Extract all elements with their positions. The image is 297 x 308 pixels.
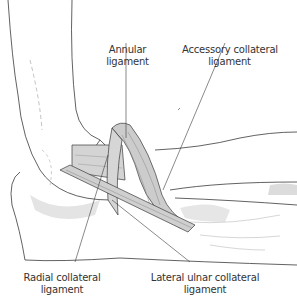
bone-contour <box>210 245 265 250</box>
label-line: Annular <box>105 44 150 56</box>
label-accessory-collateral-ligament: Accessory collateral ligament <box>182 44 277 68</box>
label-line: ligament <box>22 284 102 296</box>
label-radial-collateral-ligament: Radial collateral ligament <box>22 272 102 296</box>
bone-contour <box>200 235 280 238</box>
ulna-outline <box>175 198 297 205</box>
bone-shadow <box>268 184 297 196</box>
label-line: ligament <box>182 56 277 68</box>
ligament-fibers <box>66 170 192 228</box>
label-line: ligament <box>105 56 150 68</box>
label-lateral-ulnar-collateral-ligament: Lateral ulnar collateral ligament <box>150 272 260 296</box>
bone-contour <box>30 60 42 130</box>
bone-line <box>178 108 180 110</box>
label-line: Lateral ulnar collateral <box>150 272 260 284</box>
label-annular-ligament: Annular ligament <box>105 44 150 68</box>
label-line: ligament <box>150 284 260 296</box>
bone-contour <box>42 150 51 185</box>
humerus-outline <box>72 0 101 140</box>
bone-shadow <box>180 204 230 222</box>
radius-outline <box>155 132 297 150</box>
elbow-ligament-diagram: Annular ligament Accessory collateral li… <box>0 0 297 308</box>
label-line: Radial collateral <box>22 272 102 284</box>
label-line: Accessory collateral <box>182 44 277 56</box>
